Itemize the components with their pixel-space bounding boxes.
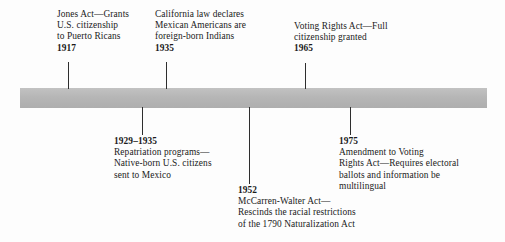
entry-line: ballots and information be <box>339 170 459 181</box>
entry-line: citizenship granted <box>294 32 388 43</box>
timeline-entry-repatriation-1929-1935: 1929–1935 Repatriation programs— Native-… <box>114 136 212 181</box>
entry-year: 1975 <box>339 136 459 147</box>
entry-line: Mexican Americans are <box>155 20 246 31</box>
entry-line: California law declares <box>155 9 246 20</box>
timeline-entry-voting-rights-act-1965: Voting Rights Act—Full citizenship grant… <box>294 21 388 55</box>
tick-line-1935 <box>166 62 167 89</box>
timeline-entry-jones-act-1917: Jones Act—Grants U.S. citizenship to Pue… <box>57 9 129 54</box>
timeline-entry-california-law-1935: California law declares Mexican American… <box>155 9 246 54</box>
entry-line: to Puerto Ricans <box>57 31 129 42</box>
entry-line: U.S. citizenship <box>57 20 129 31</box>
tick-line-1975 <box>350 107 351 135</box>
tick-line-1917 <box>68 62 69 89</box>
timeline-bar <box>20 88 487 108</box>
entry-line: Jones Act—Grants <box>57 9 129 20</box>
entry-line: Rescinds the racial restrictions <box>238 207 356 218</box>
entry-line: multilingual <box>339 181 459 192</box>
timeline-figure: Jones Act—Grants U.S. citizenship to Pue… <box>0 0 505 242</box>
entry-year: 1917 <box>57 43 129 54</box>
entry-line: Voting Rights Act—Full <box>294 21 388 32</box>
entry-year: 1935 <box>155 43 246 54</box>
entry-line: McCarren-Walter Act— <box>238 196 356 207</box>
entry-line: Native-born U.S. citizens <box>114 158 212 169</box>
entry-line: Amendment to Voting <box>339 147 459 158</box>
tick-line-1929-1935 <box>142 107 143 135</box>
timeline-entry-voting-rights-amendment-1975: 1975 Amendment to Voting Rights Act—Requ… <box>339 136 459 192</box>
tick-line-1952 <box>249 107 250 184</box>
entry-line: Repatriation programs— <box>114 147 212 158</box>
entry-year: 1929–1935 <box>114 136 212 147</box>
entry-line: Rights Act—Requires electoral <box>339 158 459 169</box>
entry-line: sent to Mexico <box>114 170 212 181</box>
entry-line: of the 1790 Naturalization Act <box>238 219 356 230</box>
entry-line: foreign-born Indians <box>155 31 246 42</box>
tick-line-1965 <box>305 63 306 89</box>
entry-year: 1965 <box>294 43 388 54</box>
